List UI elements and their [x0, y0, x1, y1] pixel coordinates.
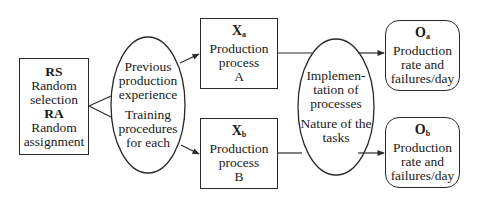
- ellipse1-line-6: for each: [126, 136, 170, 150]
- rs-line-2: selection: [30, 93, 78, 107]
- outcome-b-line-3: failures/day: [391, 169, 455, 183]
- treatment-b-line-2: process: [219, 156, 260, 170]
- controls-ellipse-2: Implemen- tation of processes Nature of …: [298, 39, 374, 175]
- sampling-box: RS Random selection RA Random assignment: [19, 58, 89, 155]
- treatment-a-line-3: A: [234, 70, 244, 84]
- outcome-a-box: Oa Production rate and failures/day: [385, 20, 460, 91]
- rs-label: RS: [45, 65, 62, 79]
- treatment-b-line-1: Production: [209, 142, 268, 156]
- outcome-a-line-2: rate and: [401, 58, 444, 72]
- ra-label: RA: [44, 107, 64, 121]
- ellipse1-line-2: production: [119, 74, 178, 88]
- ellipse2-line-2: tation of: [313, 83, 358, 97]
- ellipse1-line-5: procedures: [118, 122, 177, 136]
- outcome-b-line-1: Production: [393, 141, 452, 155]
- outcome-b-box: Ob Production rate and failures/day: [385, 117, 460, 188]
- treatment-a-symbol: Xa: [232, 23, 246, 42]
- fork-connector: [89, 96, 111, 117]
- controls-ellipse-1: Previous production experience Training …: [111, 37, 185, 173]
- ra-line-2: assignment: [24, 135, 85, 149]
- treatment-b-symbol: Xb: [232, 123, 247, 142]
- ra-line-1: Random: [31, 121, 77, 135]
- ellipse1-line-3: experience: [119, 88, 177, 102]
- ellipse1-line-4: Training: [125, 108, 171, 122]
- treatment-a-line-2: process: [219, 56, 260, 70]
- outcome-a-line-3: failures/day: [391, 72, 455, 86]
- treatment-b-box: Xb Production process B: [200, 118, 278, 189]
- ellipse2-line-5: tasks: [323, 131, 350, 145]
- ellipse2-line-4: Nature of the: [300, 117, 371, 131]
- ellipse2-line-3: processes: [310, 97, 362, 111]
- outcome-b-symbol: Ob: [415, 122, 430, 141]
- ellipse2-line-1: Implemen-: [306, 69, 365, 83]
- outcome-a-symbol: Oa: [415, 25, 430, 44]
- outcome-b-line-2: rate and: [401, 155, 444, 169]
- ellipse1-line-1: Previous: [124, 60, 171, 74]
- outcome-a-line-1: Production: [393, 44, 452, 58]
- treatment-a-box: Xa Production process A: [200, 18, 278, 89]
- rs-line-1: Random: [31, 79, 77, 93]
- treatment-b-line-3: B: [234, 170, 243, 184]
- treatment-a-line-1: Production: [209, 42, 268, 56]
